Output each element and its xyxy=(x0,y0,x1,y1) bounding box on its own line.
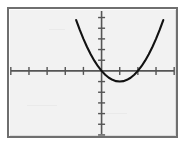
coordinate-plane xyxy=(9,9,176,136)
graph-frame xyxy=(7,7,178,138)
figure-screenshot xyxy=(0,0,185,146)
